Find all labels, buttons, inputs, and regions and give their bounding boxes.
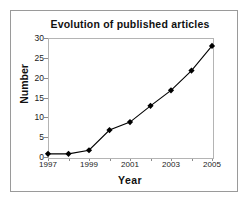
series-line bbox=[48, 46, 212, 154]
data-point-marker bbox=[65, 151, 71, 157]
line-chart: Evolution of published articles Number Y… bbox=[0, 0, 250, 200]
data-series bbox=[0, 0, 250, 200]
data-point-marker bbox=[45, 151, 51, 157]
